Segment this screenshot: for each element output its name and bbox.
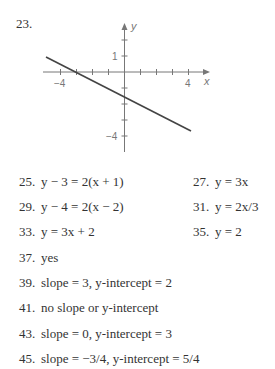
answer-text: slope = 3, y-intercept = 2 xyxy=(41,275,172,290)
y-axis-label: y xyxy=(130,20,138,32)
answer-37: 37.yes xyxy=(19,250,58,266)
answer-35: 35.y = 2 xyxy=(193,224,242,240)
answer-number: 39. xyxy=(19,275,41,291)
answer-text: y − 4 = 2(x − 2) xyxy=(41,199,124,214)
answer-number: 43. xyxy=(19,326,41,342)
answer-31: 31.y = 2x/3 xyxy=(193,199,258,215)
answer-27: 27.y = 3x xyxy=(193,174,248,190)
answer-text: y = 3x + 2 xyxy=(41,224,95,239)
answer-text: no slope or y-intercept xyxy=(41,300,158,315)
answer-number: 41. xyxy=(19,300,41,316)
answer-number: 31. xyxy=(193,199,215,215)
answer-43: 43.slope = 0, y-intercept = 3 xyxy=(19,326,172,342)
answer-text: slope = −3/4, y-intercept = 5/4 xyxy=(41,351,199,366)
answer-number: 37. xyxy=(19,250,41,266)
answer-25: 25.y − 3 = 2(x + 1) xyxy=(19,174,124,190)
answer-text: y = 3x xyxy=(215,174,248,189)
answer-number: 35. xyxy=(193,224,215,240)
line-graph: y x −4 4 1 −4 xyxy=(0,0,275,165)
answer-text: slope = 0, y-intercept = 3 xyxy=(41,326,172,341)
x-tick-label-neg4: −4 xyxy=(54,78,66,89)
answer-41: 41.no slope or y-intercept xyxy=(19,300,158,316)
answer-number: 25. xyxy=(19,174,41,190)
answer-number: 45. xyxy=(19,351,41,367)
y-tick-label-1: 1 xyxy=(112,51,118,62)
answer-text: y − 3 = 2(x + 1) xyxy=(41,174,124,189)
answer-29: 29.y − 4 = 2(x − 2) xyxy=(19,199,124,215)
answer-text: yes xyxy=(41,250,58,265)
plotted-line xyxy=(46,57,191,131)
answer-text: y = 2 xyxy=(215,224,242,239)
answer-text: y = 2x/3 xyxy=(215,199,258,214)
y-tick-label-neg4: −4 xyxy=(106,131,118,142)
answer-number: 33. xyxy=(19,224,41,240)
answer-33: 33.y = 3x + 2 xyxy=(19,224,95,240)
answer-45: 45.slope = −3/4, y-intercept = 5/4 xyxy=(19,351,199,367)
answer-39: 39.slope = 3, y-intercept = 2 xyxy=(19,275,172,291)
y-axis-arrow-icon xyxy=(122,23,128,30)
x-axis-label: x xyxy=(203,75,210,87)
answer-number: 29. xyxy=(19,199,41,215)
answer-number: 27. xyxy=(193,174,215,190)
x-tick-label-4: 4 xyxy=(185,78,191,89)
